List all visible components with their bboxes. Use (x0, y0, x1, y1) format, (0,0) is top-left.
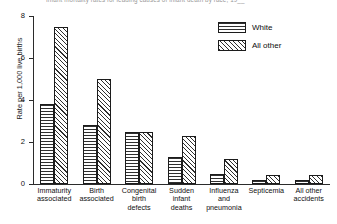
y-tick-label-6: 6 (3, 53, 25, 62)
x-category-label-0: Immaturityassociated (30, 187, 78, 204)
bar-white-3 (168, 157, 182, 184)
bar-all-other-3 (182, 136, 196, 184)
chart-title: Infant mortality rates for leading cause… (46, 0, 331, 4)
bar-all-other-0 (54, 27, 68, 185)
legend-item-white: White (218, 22, 330, 33)
legend-item-all-other: All other (218, 40, 330, 51)
bar-all-other-6 (309, 175, 323, 184)
bar-white-4 (210, 174, 224, 185)
bar-all-other-5 (266, 175, 280, 184)
chart-legend: White All other (218, 22, 330, 58)
y-axis-label: Rate per 1,000 live births (15, 14, 24, 144)
y-tick-label-4: 4 (3, 95, 25, 104)
x-category-label-2: Congenitalbirthdefects (115, 187, 163, 212)
y-tick-label-8: 8 (3, 11, 25, 20)
legend-label-all-other: All other (252, 41, 281, 50)
legend-swatch-white-icon (218, 22, 246, 33)
bar-all-other-2 (139, 132, 153, 185)
bar-all-other-4 (224, 159, 238, 184)
x-category-label-6: All otheraccidents (285, 187, 333, 204)
legend-label-white: White (252, 23, 272, 32)
bar-white-5 (252, 180, 266, 184)
bar-white-6 (295, 180, 309, 184)
bar-all-other-1 (97, 79, 111, 184)
x-category-label-5: Septicemia (242, 187, 290, 195)
y-tick-label-2: 2 (3, 137, 25, 146)
legend-swatch-all-other-icon (218, 40, 246, 51)
x-category-label-4: Influenzaandpneumonia (200, 187, 248, 212)
y-tick-0 (29, 184, 34, 185)
x-category-label-1: Birthassociated (72, 187, 120, 204)
bar-white-2 (125, 132, 139, 185)
bar-white-1 (83, 125, 97, 184)
y-tick-label-0: 0 (3, 179, 25, 188)
x-axis-line (33, 184, 330, 185)
x-category-label-3: Suddeninfantdeaths (157, 187, 205, 212)
bar-white-0 (40, 104, 54, 184)
chart-page: Infant mortality rates for leading cause… (0, 0, 337, 224)
